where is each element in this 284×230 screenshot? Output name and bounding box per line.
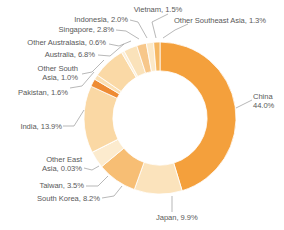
donut-slices: [84, 42, 236, 194]
label-other-east-asia-line2: Asia, 0.03%: [14, 164, 82, 173]
label-japan: Japan, 9.9%: [156, 213, 198, 222]
leader-line-taiwan: [86, 176, 108, 186]
leader-line-other-australasia: [109, 41, 131, 46]
label-other-south-asia-line2: Asia, 1.0%: [18, 73, 78, 82]
label-vietnam: Vietnam, 1.5%: [110, 5, 206, 14]
label-indonesia: Indonesia, 2.0%: [24, 15, 128, 24]
label-other-australasia: Other Australasia, 0.6%: [0, 38, 106, 47]
donut-chart: Vietnam, 1.5% Other Southeast Asia, 1.3%…: [0, 0, 284, 230]
leader-line-vietnam: [152, 14, 168, 38]
label-taiwan: Taiwan, 3.5%: [16, 181, 84, 190]
label-other-south-asia-line1: Other South: [18, 64, 78, 73]
label-other-east-asia-line1: Other East: [14, 155, 82, 164]
label-pakistan: Pakistan, 1.6%: [0, 88, 68, 97]
leader-line-south-korea: [102, 186, 122, 198]
label-india: India, 13.9%: [0, 122, 62, 131]
label-other-southeast-asia: Other Southeast Asia, 1.3%: [174, 16, 266, 25]
leader-line-india: [63, 110, 84, 126]
leader-line-other-east-asia: [84, 166, 99, 170]
label-china-line1: China: [253, 92, 273, 101]
label-australia: Australia, 6.8%: [8, 50, 95, 59]
label-china-line2: 44.0%: [253, 101, 274, 110]
label-south-korea: South Korea, 8.2%: [8, 194, 100, 203]
label-singapore: Singapore, 2.8%: [18, 25, 114, 34]
leader-line-china: [236, 100, 252, 108]
leader-line-other-southeast-asia: [163, 24, 188, 38]
leader-line-singapore: [116, 30, 139, 39]
